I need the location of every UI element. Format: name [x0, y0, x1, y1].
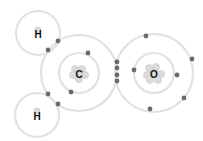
electron-dot: [46, 48, 51, 53]
electron-dot: [115, 79, 120, 84]
electron-dot: [182, 96, 187, 101]
electron-dot: [148, 107, 153, 112]
electrons: [46, 34, 195, 112]
electron-dot: [115, 73, 120, 78]
o-label: O: [150, 69, 158, 80]
c-label: C: [75, 69, 82, 80]
h2-label: H: [33, 111, 40, 122]
electron-dot: [69, 90, 74, 95]
electron-dot: [46, 92, 51, 97]
electron-dot: [175, 73, 180, 78]
electron-dot: [56, 102, 61, 107]
electron-dot: [190, 57, 195, 62]
electron-dot: [132, 68, 137, 73]
h1-label: H: [34, 29, 41, 40]
formaldehyde-bohr-diagram: H H C O: [0, 0, 203, 141]
electron-dot: [144, 34, 149, 39]
electron-dot: [56, 39, 61, 44]
electron-dot: [115, 60, 120, 65]
electron-dot: [86, 51, 91, 56]
electron-dot: [115, 66, 120, 71]
